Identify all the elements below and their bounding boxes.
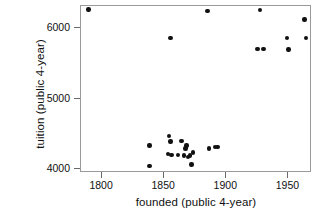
x-axis-ticks: 1800185019001950 bbox=[0, 0, 324, 218]
x-tick-mark bbox=[163, 172, 164, 178]
x-tick-mark bbox=[225, 172, 226, 178]
x-tick-label: 1950 bbox=[264, 180, 310, 191]
x-tick-label: 1850 bbox=[140, 180, 186, 191]
x-axis-label: founded (public 4-year) bbox=[80, 196, 312, 208]
x-tick-label: 1900 bbox=[202, 180, 248, 191]
x-tick-mark bbox=[101, 172, 102, 178]
x-tick-label: 1800 bbox=[78, 180, 124, 191]
scatter-plot-figure: tuition (public 4-year) 400050006000 180… bbox=[0, 0, 324, 218]
x-tick-mark bbox=[287, 172, 288, 178]
